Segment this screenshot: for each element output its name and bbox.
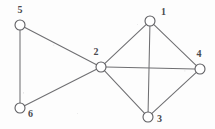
graph-figure: 123456: [0, 0, 215, 129]
labels-layer: 123456: [18, 4, 202, 124]
graph-node-5[interactable]: [15, 20, 25, 30]
graph-node-label-3: 3: [157, 113, 162, 124]
graph-node-3[interactable]: [143, 112, 153, 122]
graph-canvas: 123456: [0, 0, 215, 129]
graph-node-label-2: 2: [94, 46, 99, 57]
edges-layer: [20, 24, 196, 113]
edge-6-2: [24, 69, 96, 105]
edge-2-4: [106, 67, 195, 69]
edge-5-2: [24, 27, 96, 64]
graph-node-label-5: 5: [18, 4, 23, 15]
graph-node-label-4: 4: [197, 48, 202, 59]
edge-3-4: [152, 72, 197, 113]
graph-node-2[interactable]: [96, 62, 106, 72]
graph-node-label-6: 6: [28, 108, 33, 119]
graph-node-1[interactable]: [145, 16, 155, 26]
edge-1-4: [154, 24, 197, 65]
graph-node-4[interactable]: [195, 64, 205, 74]
edge-2-3: [104, 71, 144, 114]
graph-node-label-1: 1: [161, 6, 166, 17]
edge-2-1: [105, 24, 147, 63]
edge-1-3: [148, 26, 150, 112]
graph-node-6[interactable]: [15, 103, 25, 113]
